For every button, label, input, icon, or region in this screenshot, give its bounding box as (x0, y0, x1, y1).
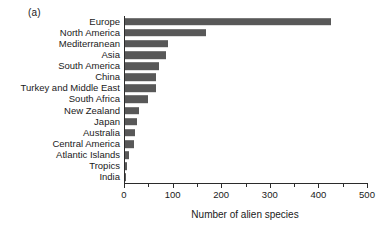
bar-row: Turkey and Middle East (124, 83, 367, 94)
x-tick-label: 400 (310, 189, 326, 200)
category-label: South America (58, 61, 120, 71)
x-tick-minor (197, 184, 198, 187)
x-tick-label: 500 (359, 189, 375, 200)
bar (125, 73, 156, 81)
x-tick-major (173, 184, 174, 188)
x-tick-label: 100 (165, 189, 181, 200)
bar-row: Europe (124, 16, 367, 27)
bar-row: New Zealand (124, 105, 367, 116)
category-label: Asia (102, 50, 120, 60)
x-tick-major (270, 184, 271, 188)
plot-area: EuropeNorth AmericaMediterraneanAsiaSout… (124, 16, 367, 183)
bar-row: India (124, 172, 367, 183)
category-label: Japan (94, 117, 120, 127)
bar-row: Mediterranean (124, 38, 367, 49)
bar-row: South Africa (124, 94, 367, 105)
bar (125, 162, 127, 170)
bar (125, 107, 139, 115)
x-tick-major (221, 184, 222, 188)
bar-row: China (124, 72, 367, 83)
bar-row: South America (124, 61, 367, 72)
bar (125, 40, 168, 48)
category-label: India (99, 173, 120, 183)
x-tick-minor (246, 184, 247, 187)
bar (125, 96, 148, 104)
bar-row: North America (124, 27, 367, 38)
bar (125, 118, 137, 126)
bar-row: Asia (124, 49, 367, 60)
x-tick-minor (294, 184, 295, 187)
x-tick-label: 200 (213, 189, 229, 200)
x-tick-major (318, 184, 319, 188)
category-label: Atlantic Islands (56, 150, 120, 160)
x-tick-minor (148, 184, 149, 187)
bar-row: Atlantic Islands (124, 150, 367, 161)
panel-label: (a) (28, 7, 41, 18)
category-label: New Zealand (64, 106, 120, 116)
bar (125, 151, 129, 159)
category-label: North America (60, 28, 120, 38)
bar-row: Japan (124, 116, 367, 127)
bar-row: Tropics (124, 161, 367, 172)
bar (125, 85, 156, 93)
bar (125, 51, 166, 59)
bar (125, 18, 331, 26)
category-label: Turkey and Middle East (21, 84, 120, 94)
x-tick-major (367, 184, 368, 188)
x-tick-label: 300 (262, 189, 278, 200)
x-tick-major (124, 184, 125, 188)
bar (125, 174, 126, 182)
bar (125, 140, 134, 148)
bar (125, 129, 135, 137)
x-tick-minor (343, 184, 344, 187)
category-label: Tropics (89, 162, 120, 172)
bar-row: Central America (124, 138, 367, 149)
figure-panel-a: (a) EuropeNorth AmericaMediterraneanAsia… (0, 0, 390, 244)
category-label: Mediterranean (59, 39, 120, 49)
bar (125, 29, 206, 37)
x-axis-title: Number of alien species (191, 209, 298, 220)
category-label: China (95, 72, 120, 82)
bar-row: Australia (124, 127, 367, 138)
category-label: Australia (83, 128, 120, 138)
category-label: Europe (89, 17, 120, 27)
x-tick-label: 0 (121, 189, 126, 200)
bar (125, 62, 159, 70)
category-label: Central America (52, 139, 120, 149)
category-label: South Africa (69, 95, 120, 105)
